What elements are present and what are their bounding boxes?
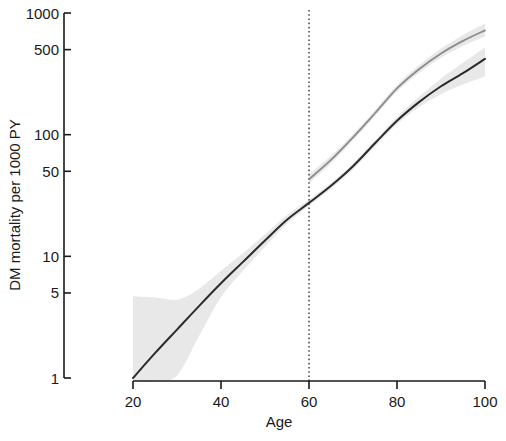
y-tick-label-500: 500: [34, 41, 59, 58]
x-tick-label-40: 40: [213, 393, 230, 410]
y-tick-label-100: 100: [34, 126, 59, 143]
y-axis-title: DM mortality per 1000 PY: [6, 119, 23, 291]
chart-figure: 1510501005001000 20406080100 Age DM mort…: [0, 0, 506, 441]
y-tick-label-1000: 1000: [26, 5, 59, 22]
dm-mortality-by-age-chart: 1510501005001000 20406080100 Age DM mort…: [0, 0, 506, 441]
y-tick-label-10: 10: [42, 248, 59, 265]
x-tick-label-80: 80: [389, 393, 406, 410]
x-tick-label-20: 20: [125, 393, 142, 410]
y-tick-label-5: 5: [51, 284, 59, 301]
y-tick-label-50: 50: [42, 163, 59, 180]
y-tick-label-1: 1: [51, 370, 59, 387]
chart-background: [0, 0, 506, 441]
x-tick-label-60: 60: [301, 393, 318, 410]
x-axis-title: Age: [266, 413, 293, 430]
x-tick-label-100: 100: [472, 393, 497, 410]
